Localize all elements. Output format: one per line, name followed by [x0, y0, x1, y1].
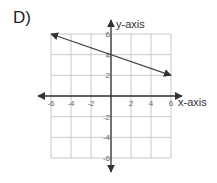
x-axis-label: x-axis: [178, 96, 207, 108]
y-tick-label: 2: [106, 71, 111, 80]
x-tick-label: -2: [87, 99, 95, 108]
y-axis-label: y-axis: [116, 18, 145, 30]
y-tick-label: -2: [103, 113, 111, 122]
coordinate-plane: -6-4-2246642-2-4-6 y-axis x-axis: [0, 0, 217, 183]
x-tick-label: 2: [129, 99, 134, 108]
x-tick-label: -4: [67, 99, 75, 108]
x-tick-label: -6: [47, 99, 55, 108]
y-tick-label: -4: [103, 133, 111, 142]
x-tick-label: 6: [169, 99, 174, 108]
y-tick-label: 6: [106, 30, 111, 39]
y-tick-label: -6: [103, 154, 111, 163]
y-tick-label: 4: [106, 51, 111, 60]
x-tick-label: 4: [149, 99, 154, 108]
